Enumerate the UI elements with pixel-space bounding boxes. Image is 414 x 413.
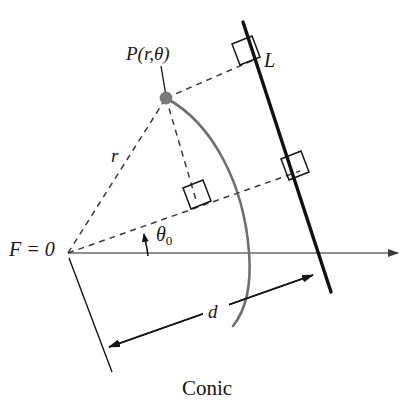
- directrix-label-L: L: [264, 50, 275, 70]
- conic-diagram-figure: P(r,θ) L r F = 0 θ0 d Conic: [0, 0, 414, 413]
- d-baseline-left: [69, 258, 112, 372]
- focus-label-F: F = 0: [9, 239, 55, 259]
- focus-label-text: F = 0: [9, 238, 55, 260]
- radius-segment-r: [68, 98, 166, 253]
- perpendicular-P-to-directrix: [166, 59, 256, 98]
- point-P-label: P(r,θ): [126, 44, 170, 63]
- radius-label-r: r: [111, 146, 118, 165]
- angle-theta-subscript: 0: [166, 233, 173, 248]
- angle-label-theta: θ0: [156, 224, 172, 247]
- diagram-canvas: [0, 0, 414, 413]
- point-label-leader: [161, 66, 166, 96]
- figure-caption: Conic: [0, 378, 414, 399]
- theta-ray-to-directrix: [68, 171, 300, 253]
- point-P-marker: [160, 92, 173, 105]
- conic-curve: [166, 98, 250, 326]
- angle-theta-symbol: θ: [156, 223, 166, 245]
- distance-label-d: d: [208, 302, 218, 321]
